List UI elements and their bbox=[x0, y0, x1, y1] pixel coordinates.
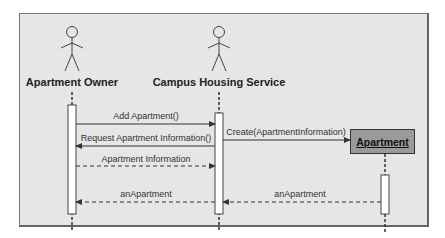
object-box-apartment: Apartment bbox=[350, 129, 415, 154]
activation-owner bbox=[68, 105, 76, 214]
actor-icon-service bbox=[208, 27, 230, 72]
message-label-create: Create(ApartmentInformation) bbox=[226, 127, 346, 137]
actor-icon-owner bbox=[61, 27, 83, 72]
message-label-apartment-info: Apartment Information bbox=[101, 154, 190, 164]
actor-label-service: Campus Housing Service bbox=[153, 76, 286, 88]
actor-label-owner: Apartment Owner bbox=[26, 76, 118, 88]
message-label-add-apartment: Add Apartment() bbox=[113, 111, 179, 121]
object-label-apartment: Apartment bbox=[356, 136, 409, 148]
message-label-return-service: anApartment bbox=[274, 189, 326, 199]
sequence-diagram-graphics bbox=[0, 0, 445, 238]
message-label-return-owner: anApartment bbox=[120, 189, 172, 199]
activation-apartment bbox=[381, 175, 389, 214]
message-label-request-info: Request Apartment Information() bbox=[81, 133, 212, 143]
activation-service bbox=[215, 113, 223, 214]
